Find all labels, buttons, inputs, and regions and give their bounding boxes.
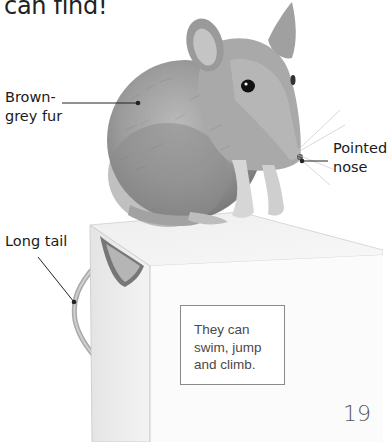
mouse-eye: [241, 80, 255, 93]
fact-text: They can swim, jump and climb.: [194, 321, 262, 374]
fact-box: They can swim, jump and climb.: [180, 305, 285, 385]
label-fur: Brown- grey fur: [5, 88, 62, 126]
page-number: 19: [343, 401, 371, 426]
label-nose: Pointed nose: [333, 139, 387, 177]
leader-line-tail: [38, 257, 76, 304]
label-tail: Long tail: [5, 232, 67, 251]
